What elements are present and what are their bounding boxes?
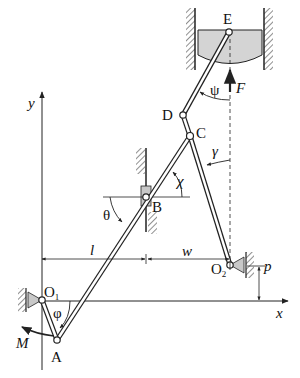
label-o2: O2: [211, 261, 226, 279]
angle-theta: θ: [103, 197, 122, 223]
label-c: C: [196, 125, 206, 141]
svg-text:φ: φ: [53, 305, 62, 321]
force-f: F: [230, 70, 246, 96]
y-axis-label: y: [26, 95, 35, 111]
joint-d: [180, 112, 186, 118]
svg-text:l: l: [90, 242, 94, 258]
linkages: [42, 32, 230, 340]
label-a: A: [51, 349, 62, 365]
slider-guide-b: [103, 148, 190, 234]
label-d: D: [162, 107, 173, 123]
angle-chi: χ: [173, 172, 184, 197]
joint-e: [226, 29, 232, 35]
x-axis-label: x: [275, 305, 283, 321]
angle-psi: ψ: [200, 82, 230, 100]
moment-m: M: [15, 327, 54, 351]
joint-a: [54, 337, 60, 343]
svg-text:θ: θ: [103, 207, 110, 223]
svg-text:p: p: [263, 258, 272, 274]
svg-text:χ: χ: [175, 173, 184, 189]
svg-text:M: M: [15, 335, 30, 351]
angle-gamma: γ: [207, 143, 230, 165]
svg-text:ψ: ψ: [210, 82, 220, 98]
dimension-l: l: [42, 242, 146, 264]
joint-c: [187, 133, 194, 140]
svg-text:w: w: [182, 243, 192, 259]
joint-b: [143, 194, 149, 200]
mechanism-diagram: y x F: [0, 0, 300, 378]
label-o1: O1: [44, 284, 59, 302]
force-f-label: F: [235, 80, 246, 96]
svg-text:γ: γ: [212, 143, 219, 159]
label-b: B: [152, 199, 162, 215]
label-e: E: [223, 11, 232, 27]
